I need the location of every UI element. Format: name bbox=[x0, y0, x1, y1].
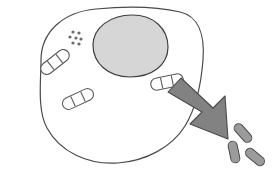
nucleus bbox=[93, 15, 168, 77]
granule-dot bbox=[74, 36, 77, 39]
granule-dot bbox=[79, 37, 82, 40]
granule-dot bbox=[71, 30, 74, 33]
cell-illustration bbox=[0, 0, 274, 177]
granule-dot bbox=[68, 35, 71, 38]
granule-dot bbox=[71, 41, 74, 44]
granule-dot bbox=[77, 31, 80, 34]
figure-root bbox=[0, 0, 274, 177]
granule-dot bbox=[77, 42, 80, 45]
